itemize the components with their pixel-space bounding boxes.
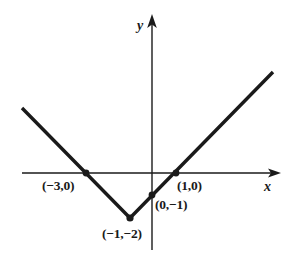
point-label-neg1-neg2: (−1,−2) — [102, 227, 142, 241]
point-marker-neg3-0 — [83, 170, 90, 177]
absolute-value-curve — [22, 72, 273, 218]
point-label-neg3-0: (−3,0) — [42, 179, 74, 193]
graph-figure: (−3,0) (1,0) (0,−1) (−1,−2) y x — [0, 0, 296, 255]
point-label-0-neg1: (0,−1) — [155, 198, 187, 212]
x-axis-label: x — [264, 180, 271, 194]
point-label-1-0: (1,0) — [177, 179, 202, 193]
coordinate-plane — [0, 0, 296, 255]
y-axis-label: y — [137, 19, 143, 33]
point-marker-1-0 — [173, 170, 180, 177]
point-marker-neg1-neg2 — [126, 214, 133, 221]
